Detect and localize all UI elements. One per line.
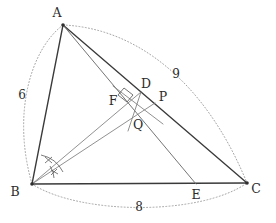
geometry-figure: A B C D E F P Q 6 9 8 bbox=[0, 0, 276, 223]
label-p: P bbox=[159, 89, 167, 104]
vertex-dot-b bbox=[30, 182, 34, 186]
segment-ab bbox=[32, 25, 63, 184]
label-b: B bbox=[10, 184, 19, 199]
figure-canvas: A B C D E F P Q 6 9 8 bbox=[0, 0, 276, 223]
label-q: Q bbox=[133, 117, 143, 132]
vertex-dot-c bbox=[245, 181, 249, 185]
segment-bp bbox=[32, 103, 155, 184]
label-a: A bbox=[51, 5, 62, 20]
label-side-8: 8 bbox=[135, 200, 143, 214]
label-e: E bbox=[191, 187, 200, 202]
label-c: C bbox=[251, 181, 261, 196]
label-side-6: 6 bbox=[18, 88, 26, 102]
segment-bc bbox=[32, 183, 247, 184]
segment-ac bbox=[63, 25, 247, 183]
label-f: F bbox=[109, 93, 118, 108]
arc-label-6 bbox=[24, 25, 63, 184]
segment-ae bbox=[63, 25, 196, 184]
label-side-9: 9 bbox=[172, 67, 180, 81]
segment-bd bbox=[32, 92, 141, 184]
label-d: D bbox=[141, 76, 151, 91]
vertex-dot-a bbox=[61, 23, 65, 27]
